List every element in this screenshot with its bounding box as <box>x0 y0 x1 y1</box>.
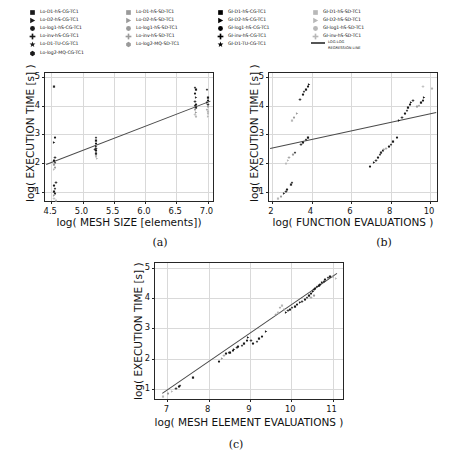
y-axis-tick <box>42 192 45 193</box>
y-axis-tick-label: 4 <box>136 292 150 302</box>
grid-line-horizontal <box>269 163 437 164</box>
x-axis-tick <box>83 201 84 204</box>
x-axis-tick-label: 10 <box>285 404 296 414</box>
legend-marker-icon <box>124 40 133 48</box>
x-axis-tick-label: 9 <box>246 404 251 414</box>
x-axis-tick <box>291 399 292 402</box>
y-axis-tick <box>152 298 155 299</box>
data-point <box>191 364 195 383</box>
legend-marker-icon <box>28 24 37 32</box>
y-axis-tick-label: 2 <box>136 353 150 363</box>
data-point <box>395 124 399 143</box>
y-axis-tick <box>152 328 155 329</box>
y-axis-tick <box>266 77 269 78</box>
y-axis-tick <box>42 77 45 78</box>
x-axis-tick-label: 2 <box>268 206 273 216</box>
data-point <box>289 171 293 190</box>
legend-marker-icon <box>216 8 225 16</box>
chart-a: log( EXECUTION TIME [s] )log( MESH SIZE … <box>14 64 220 232</box>
y-axis-tick-label: 1 <box>136 383 150 393</box>
legend-marker-icon <box>124 24 133 32</box>
x-axis-tick-label: 8 <box>205 404 210 414</box>
legend-item: Lo-D1-hS-CG-TC1 <box>28 8 124 16</box>
x-axis-label: log( MESH ELEMENT EVALUATIONS ) <box>154 416 344 428</box>
y-axis-tick <box>266 134 269 135</box>
legend-item: Lo-D2-hS-CG-TC1 <box>28 16 124 24</box>
grid-line-horizontal <box>45 192 213 193</box>
y-axis-tick <box>152 359 155 360</box>
legend-item: GI-log1-hS-SD-TC1 <box>311 24 411 32</box>
y-axis-tick-label: 5 <box>250 71 264 81</box>
plot-area <box>154 262 344 400</box>
x-axis-tick-label: 6.0 <box>137 206 150 216</box>
legend-marker-icon <box>28 49 37 57</box>
grid-line-vertical <box>176 73 177 201</box>
x-axis-tick-label: 11 <box>326 404 337 414</box>
legend-marker-icon <box>28 16 37 24</box>
x-axis-tick <box>209 399 210 402</box>
legend-marker-icon <box>311 24 320 32</box>
legend-item: Lo-inv-hS-SD-TC1 <box>124 32 216 40</box>
legend-item-label: GI-D1-hS-CG-TC1 <box>228 8 266 16</box>
y-axis-tick <box>152 268 155 269</box>
legend-item: GI-D2-hS-SD-TC1 <box>311 16 411 24</box>
legend-item-label: GI-D1-TU-CG-TC1 <box>228 40 266 48</box>
x-axis-tick <box>114 201 115 204</box>
plot-area <box>44 72 214 202</box>
legend-item-label: GI-D2-hS-CG-TC1 <box>228 16 266 24</box>
legend-item: GI-D2-hS-CG-TC1 <box>216 16 311 24</box>
data-point <box>54 187 58 206</box>
y-axis-tick <box>42 134 45 135</box>
x-axis-tick <box>351 201 352 204</box>
x-axis-tick-label: 10 <box>424 206 435 216</box>
legend-item: Lo-D1-TU-CG-TC1 <box>28 40 124 48</box>
data-point <box>205 104 209 123</box>
y-axis-tick-label: 5 <box>136 262 150 272</box>
x-axis-tick <box>391 201 392 204</box>
grid-line-horizontal <box>155 389 343 390</box>
legend-item-label: Lo-log1-hS-CG-TC1 <box>40 24 82 32</box>
legend-regression-row: REGRESSION LINE <box>311 46 411 51</box>
x-axis-tick <box>208 201 209 204</box>
grid-line-horizontal <box>45 163 213 164</box>
grid-line-vertical <box>351 73 352 201</box>
legend-item-label: GI-inv-hS-CG-TC1 <box>228 32 266 40</box>
data-point <box>264 319 268 338</box>
legend-column-3: GI-D1-hS-CG-TC1GI-D2-hS-CG-TC1GI-log1-hS… <box>216 8 311 60</box>
legend-item: GI-D1-TU-CG-TC1 <box>216 40 311 48</box>
x-axis-tick-label: 6 <box>347 206 352 216</box>
legend-item-label: Lo-log2-MQ-CG-TC1 <box>40 49 84 57</box>
legend-item-label: Lo-D1-hS-CG-TC1 <box>40 8 79 16</box>
y-axis-tick <box>266 163 269 164</box>
grid-line-horizontal <box>269 77 437 78</box>
y-axis-tick <box>42 163 45 164</box>
x-axis-tick-label: 6.5 <box>169 206 182 216</box>
legend-item-label: Lo-inv-hS-CG-TC1 <box>40 32 79 40</box>
data-point <box>52 74 56 93</box>
x-axis-tick <box>312 201 313 204</box>
data-point <box>178 373 182 392</box>
legend-item-label: GI-D2-hS-SD-TC1 <box>323 16 361 24</box>
x-axis-tick <box>145 201 146 204</box>
legend-column-4: GI-D1-hS-SD-TC1GI-D2-hS-SD-TC1GI-log1-hS… <box>311 8 411 60</box>
legend-marker-icon <box>216 16 225 24</box>
caption-c: (c) <box>216 438 256 451</box>
grid-line-vertical <box>209 263 210 399</box>
x-axis-tick-label: 4.5 <box>44 206 57 216</box>
legend-item: Lo-inv-hS-CG-TC1 <box>28 32 124 40</box>
legend-item-label: GI-log1-hS-CG-TC1 <box>228 24 269 32</box>
legend-item: Lo-log2-MQ-SD-TC1 <box>124 40 216 48</box>
y-axis-tick-label: 2 <box>26 157 40 167</box>
legend-item: GI-D1-hS-CG-TC1 <box>216 8 311 16</box>
legend-item-label: Lo-D1-TU-CG-TC1 <box>40 40 78 48</box>
legend-item-label: Lo-inv-hS-SD-TC1 <box>136 32 175 40</box>
regression-line <box>46 101 211 165</box>
legend-marker-icon <box>124 16 133 24</box>
x-axis-tick-label: 5.0 <box>75 206 88 216</box>
legend-regression-entry: LOG-LOGREGRESSION LINE <box>311 40 411 50</box>
grid-line-horizontal <box>45 134 213 135</box>
data-point <box>411 87 415 106</box>
legend-item-label: GI-inv-hS-SD-TC1 <box>323 32 361 40</box>
legend-item: Lo-log2-MQ-CG-TC1 <box>28 48 124 56</box>
y-axis-tick <box>266 192 269 193</box>
